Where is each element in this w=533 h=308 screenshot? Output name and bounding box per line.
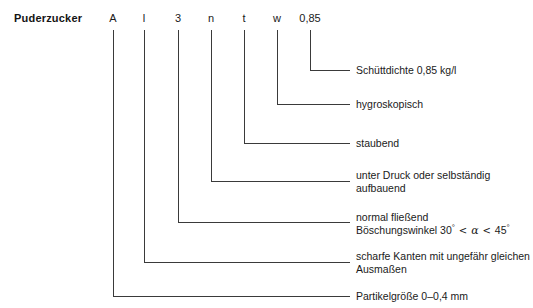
boeschungswinkel-alpha: α	[471, 224, 478, 237]
description-unter-druck-line2: aufbauend	[356, 182, 490, 195]
description-partikelgroesse-line1: Partikelgröße 0–0,4 mm	[356, 290, 468, 302]
boeschungswinkel-relation-2: <	[482, 225, 492, 236]
description-staubend-line1: staubend	[356, 137, 399, 149]
code-character-5: w	[273, 12, 281, 24]
material-title: Puderzucker	[14, 12, 82, 24]
description-schuettdichte-line1: Schüttdichte 0,85 kg/l	[356, 64, 456, 76]
code-character-2: 3	[175, 12, 181, 24]
description-normal-fliessend: normal fließend Böschungswinkel 30° < α …	[356, 211, 510, 237]
leader-line-normal-fliessend	[179, 30, 351, 223]
description-normal-fliessend-line1: normal fließend	[356, 211, 428, 223]
leader-line-scharfe-kanten	[145, 30, 351, 263]
code-character-0: A	[109, 12, 116, 24]
description-hygroskopisch-line1: hygroskopisch	[356, 98, 423, 110]
boeschungswinkel-value-2: 45	[495, 224, 507, 236]
code-character-3: n	[208, 12, 214, 24]
leader-line-staubend	[245, 30, 351, 144]
description-scharfe-kanten-line1: scharfe Kanten mit ungefähr gleichen	[356, 250, 530, 262]
description-scharfe-kanten: scharfe Kanten mit ungefähr gleichen Aus…	[356, 250, 530, 275]
description-hygroskopisch: hygroskopisch	[356, 98, 423, 111]
description-boeschungswinkel: Böschungswinkel 30° < α < 45°	[356, 224, 510, 238]
leader-line-unter-druck	[212, 30, 351, 182]
boeschungswinkel-degree-2: °	[507, 222, 510, 231]
leader-line-hygroskopisch	[278, 30, 351, 105]
code-character-4: t	[242, 12, 245, 24]
boeschungswinkel-degree-1: °	[452, 222, 455, 231]
description-unter-druck: unter Druck oder selbständig aufbauend	[356, 169, 490, 194]
description-partikelgroesse: Partikelgröße 0–0,4 mm	[356, 290, 468, 303]
description-schuettdichte: Schüttdichte 0,85 kg/l	[356, 64, 456, 77]
boeschungswinkel-relation-1: <	[458, 225, 468, 236]
bulk-material-code-diagram: Puderzucker A l 3 n t w 0,85 Schüttdicht…	[0, 0, 533, 308]
code-character-1: l	[143, 12, 145, 24]
leader-line-schuettdichte	[311, 30, 351, 71]
boeschungswinkel-prefix: Böschungswinkel 30	[356, 224, 452, 236]
description-scharfe-kanten-line2: Ausmaßen	[356, 263, 530, 276]
description-unter-druck-line1: unter Druck oder selbständig	[356, 169, 490, 181]
code-character-6: 0,85	[299, 12, 320, 24]
description-staubend: staubend	[356, 137, 399, 150]
